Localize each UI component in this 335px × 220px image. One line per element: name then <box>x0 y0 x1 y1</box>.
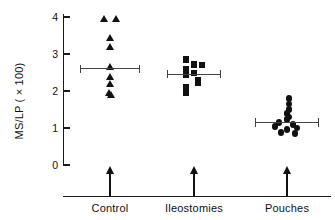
y-tick-label: 3 <box>42 49 58 59</box>
data-point-square <box>183 90 189 96</box>
data-point-triangle <box>107 91 115 98</box>
y-tick-mark <box>64 127 70 128</box>
error-bar-cap-right <box>139 65 140 73</box>
category-label-control: Control <box>92 202 129 214</box>
data-point-square <box>195 80 201 86</box>
mean-error-bar <box>167 74 221 75</box>
y-tick-mark <box>64 53 70 54</box>
y-tick-mark <box>64 164 70 165</box>
up-arrow-icon <box>190 166 198 174</box>
y-axis-title: MS/LP ( × 100) <box>13 36 25 166</box>
data-point-triangle <box>106 80 114 87</box>
data-point-triangle <box>106 43 114 50</box>
group-arrow-shaft <box>193 172 194 196</box>
y-tick-label: 1 <box>42 123 58 133</box>
x-axis-line <box>63 196 331 197</box>
data-point-square <box>199 62 205 68</box>
data-point-square <box>183 56 189 62</box>
data-point-square <box>191 61 197 67</box>
y-tick-label: 2 <box>42 86 58 96</box>
group-arrow-shaft <box>286 172 287 196</box>
data-point-triangle <box>112 15 120 22</box>
category-label-ileostomies: Ileostomies <box>165 202 223 214</box>
y-tick-label: 4 <box>42 12 58 22</box>
error-bar-cap-right <box>318 118 319 126</box>
mean-error-bar <box>80 68 140 69</box>
data-point-triangle <box>106 34 114 41</box>
data-point-triangle <box>100 15 108 22</box>
data-point-circle <box>292 130 299 137</box>
up-arrow-icon <box>283 166 291 174</box>
data-point-circle <box>278 129 285 136</box>
up-arrow-icon <box>106 166 114 174</box>
category-label-pouches: Pouches <box>265 202 309 214</box>
y-tick-mark <box>64 90 70 91</box>
error-bar-cap-left <box>80 65 81 73</box>
y-tick-label: 0 <box>42 160 58 170</box>
error-bar-cap-left <box>167 70 168 78</box>
error-bar-cap-right <box>220 70 221 78</box>
data-point-triangle <box>106 73 114 80</box>
mean-error-bar <box>255 122 319 123</box>
error-bar-cap-left <box>255 118 256 126</box>
scatter-plot-figure: MS/LP ( × 100) 43210 ControlIleostomiesP… <box>0 0 335 220</box>
data-point-circle <box>272 123 279 130</box>
y-tick-mark <box>64 16 70 17</box>
data-point-circle <box>284 126 291 133</box>
group-arrow-shaft <box>109 172 110 196</box>
